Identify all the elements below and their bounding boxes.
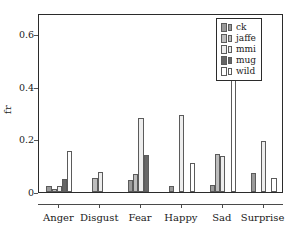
legend-swatch-icon — [221, 34, 227, 43]
bar — [251, 173, 256, 192]
legend-swatch-icon — [221, 45, 227, 54]
bar — [271, 178, 276, 192]
x-tick-mark — [263, 204, 264, 208]
x-tick-mark — [58, 204, 59, 208]
legend-item: wild — [221, 66, 256, 77]
legend-item: mmi — [221, 44, 256, 55]
x-tick-label: Surprise — [241, 212, 285, 223]
y-tick-mark — [34, 140, 38, 141]
bar-group — [46, 15, 72, 192]
bar — [190, 163, 195, 192]
legend-swatch-small-icon — [228, 57, 232, 64]
x-axis-line — [38, 204, 283, 205]
bar-group — [128, 15, 154, 192]
bar — [179, 115, 184, 192]
legend-item: mug — [221, 55, 256, 66]
x-tick-label: Sad — [212, 212, 231, 223]
bar — [67, 151, 72, 192]
bar — [220, 156, 225, 192]
x-tick-mark — [181, 204, 182, 208]
x-tick-label: Disgust — [80, 212, 118, 223]
x-tick-label: Fear — [129, 212, 152, 223]
y-tick-mark — [34, 35, 38, 36]
bar-group — [169, 15, 195, 192]
legend-swatch-icon — [221, 67, 227, 76]
y-tick-label: 0.2 — [6, 135, 34, 145]
bar-group — [87, 15, 113, 192]
x-tick-label: Anger — [43, 212, 74, 223]
bar-chart-figure: fr 00.20.40.6 AngerDisgustFearHappySadSu… — [0, 0, 290, 252]
legend: ckjaffemmimugwild — [216, 18, 262, 81]
bar — [98, 172, 103, 192]
legend-label: mug — [236, 56, 256, 65]
legend-swatch-small-icon — [228, 24, 232, 31]
legend-item: jaffe — [221, 33, 256, 44]
y-tick-label: 0 — [6, 188, 34, 198]
y-tick-label: 0.6 — [6, 30, 34, 40]
y-tick-mark — [34, 88, 38, 89]
legend-swatch-small-icon — [228, 46, 232, 53]
legend-label: jaffe — [236, 34, 256, 43]
legend-swatch-icon — [221, 23, 227, 32]
legend-swatch-small-icon — [228, 35, 232, 42]
y-axis-tick-labels: 00.20.40.6 — [0, 0, 34, 252]
x-tick-label: Happy — [164, 212, 197, 223]
legend-item: ck — [221, 22, 256, 33]
bar — [144, 155, 149, 192]
x-tick-mark — [222, 204, 223, 208]
legend-label: wild — [236, 67, 255, 76]
bar — [169, 186, 174, 192]
y-tick-label: 0.4 — [6, 83, 34, 93]
legend-swatch-icon — [221, 56, 227, 65]
y-tick-mark — [34, 193, 38, 194]
legend-label: mmi — [236, 45, 256, 54]
x-tick-mark — [140, 204, 141, 208]
legend-swatch-small-icon — [228, 68, 232, 75]
legend-label: ck — [236, 23, 247, 32]
x-tick-mark — [99, 204, 100, 208]
bar — [261, 141, 266, 192]
